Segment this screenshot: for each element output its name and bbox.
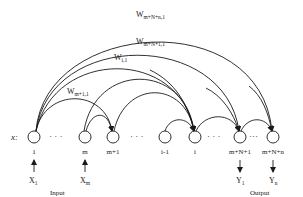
node-labels: 1 m m+1 i-1 i m+N+1 m+N+n	[32, 148, 284, 156]
node-m-N-n	[267, 131, 279, 143]
io-labels: X1 Xm Y1 Yn	[29, 176, 278, 186]
network-diagram: Wm+N+n,1 Wm+N+1,1 Wi,1 Wm+1,1 x: · · · ·…	[0, 0, 303, 197]
node-label-m-N-1: m+N+1	[229, 148, 251, 156]
edge-labels: Wm+N+n,1 Wm+N+1,1 Wi,1 Wm+1,1	[67, 10, 165, 97]
node-m-N-1	[234, 131, 246, 143]
input-group-label: Input	[50, 189, 65, 197]
output-arrows	[240, 160, 273, 172]
edge-m1-to-i	[114, 93, 194, 131]
edge-im1-to-i	[165, 120, 194, 131]
label-w-mNn-1: Wm+N+n,1	[136, 10, 165, 20]
edge-stub-to-mN1	[206, 88, 239, 131]
node-label-i-minus-1: i-1	[161, 148, 169, 156]
output-label-yn: Yn	[269, 176, 278, 186]
node-i	[189, 131, 201, 143]
node-label-1: 1	[32, 148, 36, 156]
edge-m-to-i	[84, 79, 194, 131]
ellipsis-4: ···	[249, 131, 258, 141]
label-w-i-1: Wi,1	[114, 53, 127, 63]
ellipsis-3: · · ·	[207, 131, 221, 141]
input-label-x1: X1	[29, 176, 38, 186]
input-label-xm: Xm	[80, 176, 91, 186]
edge-mN1-to-mNn	[241, 120, 272, 131]
output-label-y1: Y1	[236, 176, 245, 186]
label-w-m1-1: Wm+1,1	[67, 87, 89, 97]
node-label-m-plus-1: m+1	[107, 148, 120, 156]
input-arrows	[34, 160, 85, 172]
node-m	[79, 131, 91, 143]
edge-m-to-m1	[86, 115, 112, 131]
ellipsis-1: · · ·	[49, 131, 63, 141]
row-label-x: x:	[10, 132, 18, 142]
node-m-plus-1	[107, 131, 119, 143]
output-group-label: Output	[250, 189, 270, 197]
edge-1-to-i	[36, 69, 194, 131]
label-w-mN1-1: Wm+N+1,1	[136, 37, 165, 47]
ellipsis-2: · · ·	[130, 131, 144, 141]
node-i-minus-1	[159, 131, 171, 143]
node-label-m-N-n: m+N+n	[262, 148, 284, 156]
nodes	[28, 131, 279, 143]
node-1	[28, 131, 40, 143]
node-label-m: m	[82, 148, 88, 156]
node-label-i: i	[194, 148, 196, 156]
edge-i-to-mN1	[196, 117, 239, 131]
